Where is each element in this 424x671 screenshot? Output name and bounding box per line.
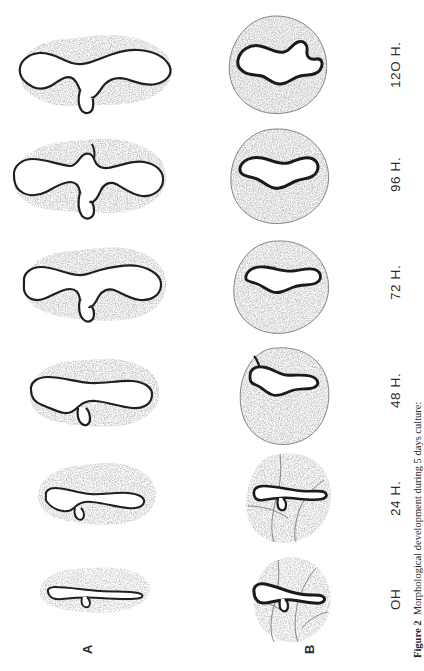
specimen-a-0h [32,556,162,626]
panel-label-b: B [302,645,317,654]
figure-caption-text: Morphological development during 5 days … [412,402,423,616]
timepoint-label-24h: 24 H. [388,481,403,516]
lumen-branch [78,407,90,425]
figure-plate: 12O H. 96 H. 72 H. 48 H. 24 H. OH A B Fi… [0,0,424,671]
figure-caption: Figure 2 Morphological development durin… [412,402,423,658]
specimen-a-24h [26,452,168,538]
specimen-drawing [12,238,178,336]
lumen-branch [82,597,90,607]
lumen-outline [14,154,163,204]
specimen-drawing [244,552,348,652]
specimen-drawing [26,452,168,538]
panel-label-a: A [80,645,95,654]
specimen-drawing [20,348,168,440]
timepoint-label-0h: OH [388,589,403,610]
stipple-field [240,348,329,445]
figure-caption-label: Figure 2 [412,621,423,658]
lumen-branch [75,507,84,520]
lumen-branch [278,498,286,510]
specimen-b-120h [218,10,338,120]
specimen-drawing [222,124,338,230]
specimen-drawing [218,10,338,120]
specimen-b-24h [236,448,344,552]
specimen-drawing [226,236,338,340]
lumen-branch [280,599,288,611]
specimen-drawing [32,556,162,626]
timepoint-label-96h: 96 H. [388,157,403,192]
specimen-a-96h [4,128,176,228]
specimen-b-96h [222,124,338,230]
specimen-a-48h [20,348,168,440]
specimen-b-48h [230,344,340,448]
specimen-drawing [6,18,184,122]
specimen-b-72h [226,236,338,340]
timepoint-label-120h: 12O H. [388,42,403,88]
specimen-a-120h [6,18,184,122]
specimen-a-72h [12,238,178,336]
specimen-drawing [236,448,344,552]
specimen-drawing [230,344,340,448]
specimen-drawing [4,128,176,228]
specimen-b-0h [244,552,348,652]
timepoint-label-72h: 72 H. [388,265,403,300]
timepoint-label-48h: 48 H. [388,373,403,408]
